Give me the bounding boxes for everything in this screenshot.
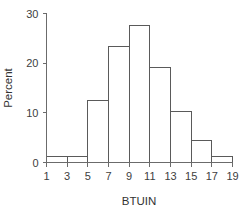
histogram-bar — [47, 157, 68, 163]
chart-canvas: 0102030 135791113151719 BTUIN Percent — [0, 0, 252, 212]
x-tick-label: 7 — [105, 170, 111, 182]
x-tick-label: 13 — [164, 170, 176, 182]
x-axis-title: BTUIN — [122, 195, 157, 207]
y-tick-label: 10 — [26, 107, 38, 119]
histogram-bar — [88, 101, 109, 163]
x-axis-ticks: 135791113151719 — [43, 163, 238, 182]
histogram-chart: 0102030 135791113151719 BTUIN Percent — [0, 0, 252, 212]
x-tick-label: 19 — [226, 170, 238, 182]
histogram-bar — [191, 140, 212, 162]
y-axis-title: Percent — [2, 67, 14, 107]
histogram-bar — [171, 111, 192, 162]
x-tick-label: 17 — [206, 170, 218, 182]
histogram-bar — [150, 68, 171, 163]
histogram-bar — [67, 157, 88, 163]
x-tick-label: 9 — [126, 170, 132, 182]
x-tick-label: 15 — [185, 170, 197, 182]
x-tick-label: 5 — [85, 170, 91, 182]
histogram-bar — [129, 25, 150, 162]
x-tick-label: 3 — [64, 170, 70, 182]
y-axis-ticks: 0102030 — [26, 8, 46, 169]
y-tick-label: 0 — [32, 157, 38, 169]
x-tick-label: 11 — [144, 170, 155, 182]
y-tick-label: 30 — [26, 8, 38, 20]
bars-group — [47, 25, 233, 162]
x-tick-label: 1 — [43, 170, 49, 182]
histogram-bar — [212, 157, 233, 163]
histogram-bar — [109, 47, 130, 163]
y-tick-label: 20 — [26, 57, 38, 69]
